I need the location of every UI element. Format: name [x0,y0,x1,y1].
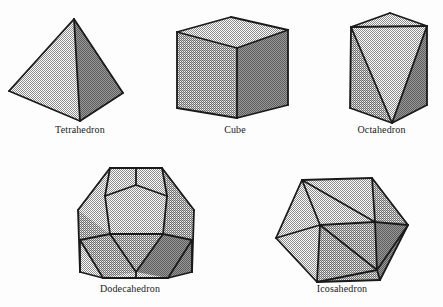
solid-octahedron [350,13,427,123]
label-dodecahedron: Dodecahedron [45,283,215,294]
solids-canvas [0,0,443,307]
label-tetrahedron: Tetrahedron [0,124,160,135]
platonic-solids-figure: Tetrahedron Cube Octahedron Dodecahedron… [0,0,443,307]
solid-tetrahedron [9,19,123,121]
solid-dodecahedron [78,168,194,278]
octa-edge-left-vertical [350,27,351,108]
solid-cube [177,17,288,118]
octa-face-top [351,13,427,27]
solid-icosahedron [276,178,408,282]
label-octahedron: Octahedron [320,124,443,135]
solids-group [9,13,427,282]
tetra-face-right [74,19,123,121]
label-cube: Cube [170,124,300,135]
icosa-face-8 [375,222,408,270]
label-icosahedron: Icosahedron [262,283,422,294]
octa-edge-upper-horizontal [351,26,427,27]
